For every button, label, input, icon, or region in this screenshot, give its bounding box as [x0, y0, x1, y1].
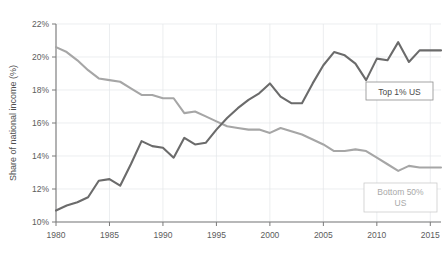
legend-label-bottom-50-us-line1: Bottom 50% [377, 187, 424, 197]
y-tick-label: 14% [32, 151, 49, 161]
y-axis-ticks [52, 24, 56, 222]
series-line-bottom-50-us [56, 47, 441, 171]
x-tick-label: 2015 [421, 230, 440, 240]
x-tick-label: 1980 [47, 230, 66, 240]
income-share-chart: 10%12%14%16%18%20%22% 198019851990199520… [0, 0, 446, 256]
legend-label-top-1-us: Top 1% US [378, 87, 421, 97]
y-axis-title: Share of national income (%) [8, 65, 18, 181]
y-tick-label: 20% [32, 52, 49, 62]
x-axis-tick-labels: 19801985199019952000200520102015 [47, 230, 440, 240]
x-axis-ticks [56, 222, 430, 226]
y-tick-label: 18% [32, 85, 49, 95]
x-tick-label: 2000 [260, 230, 279, 240]
y-tick-label: 22% [32, 19, 49, 29]
legend-top-1-us: Top 1% US [366, 82, 433, 100]
x-tick-label: 1990 [153, 230, 172, 240]
x-tick-label: 1985 [100, 230, 119, 240]
y-axis-tick-labels: 10%12%14%16%18%20%22% [32, 19, 49, 227]
y-tick-label: 12% [32, 184, 49, 194]
x-tick-label: 2010 [367, 230, 386, 240]
y-tick-label: 16% [32, 118, 49, 128]
x-tick-label: 1995 [207, 230, 226, 240]
legend-label-bottom-50-us-line2: US [395, 198, 407, 208]
y-tick-label: 10% [32, 217, 49, 227]
chart-svg: 10%12%14%16%18%20%22% 198019851990199520… [0, 0, 446, 256]
legend-bottom-50-us: Bottom 50% US [364, 183, 437, 212]
x-tick-label: 2005 [314, 230, 333, 240]
